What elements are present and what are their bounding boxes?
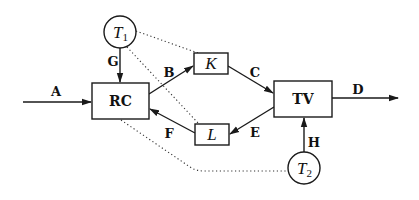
node-tv: TV [274,81,332,117]
edge-label-f: F [164,126,174,141]
edge-label-d: D [352,82,363,97]
dotted-link-t1-k [136,31,198,53]
edge-label-h: H [308,135,320,150]
edge-label-b: B [164,65,175,80]
state-flow-diagram: RC K L TV T1 T2 A G B C D E F H [0,0,419,200]
node-rc-label: RC [109,93,132,109]
node-l: L [195,124,229,145]
node-t1: T1 [104,16,136,48]
edge-label-c: C [250,65,260,80]
node-rc: RC [92,83,149,119]
edge-label-a: A [50,84,62,99]
node-k: K [194,53,228,74]
node-tv-label: TV [292,91,314,107]
edge-label-e: E [250,125,260,140]
node-k-label: K [204,54,218,73]
edge-label-g: G [107,54,118,69]
node-t2: T2 [288,152,320,184]
node-l-label: L [206,125,216,144]
